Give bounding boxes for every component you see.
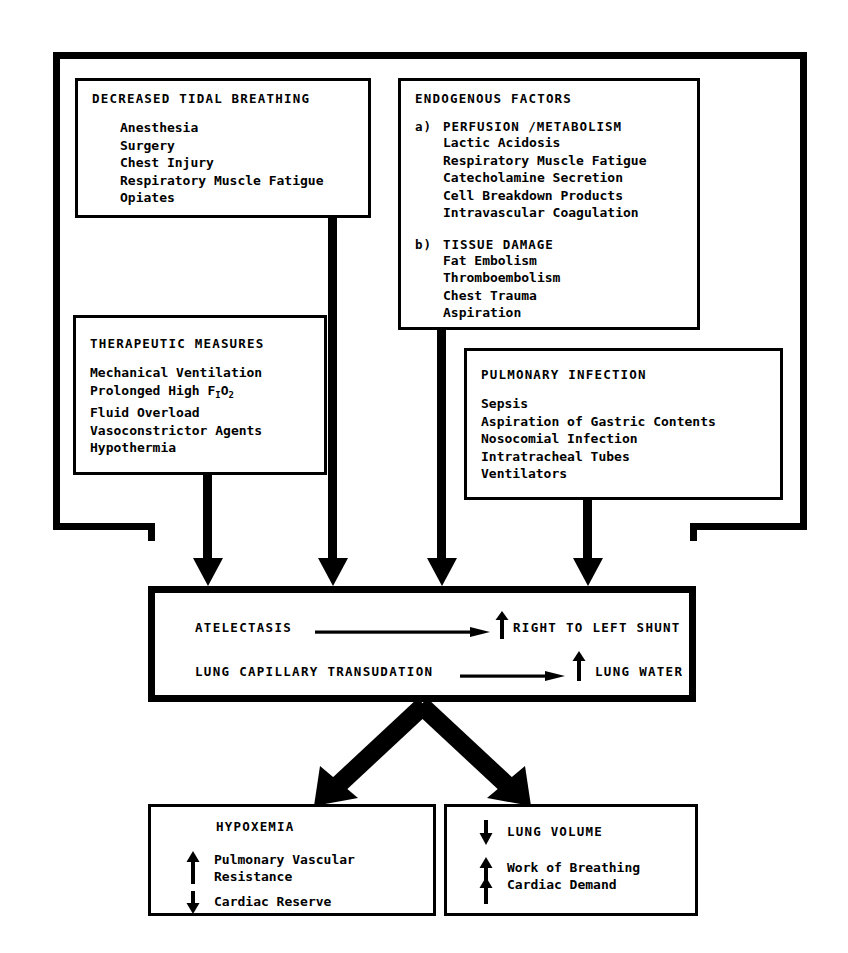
lung-volume-entry-1-line-1: Work of Breathing [507, 859, 640, 876]
outer-frame-bottom-left [53, 523, 155, 530]
increase-arrow-icon [572, 651, 586, 681]
group-subheading: PERFUSION /METABOLISM [443, 119, 622, 134]
outer-frame-left [53, 52, 60, 530]
lung-volume-entry-2-line-1: Cardiac Demand [507, 876, 617, 893]
box-pulmonary-infection: PULMONARY INFECTION Sepsis Aspiration of… [464, 348, 783, 500]
box-decreased-tidal-breathing: DECREASED TIDAL BREATHING Anesthesia Sur… [75, 78, 371, 218]
connector-endogenous-to-center [437, 330, 446, 563]
central-row-1-cause: ATELECTASIS [195, 620, 292, 635]
arrowhead-therapeutic-to-center [193, 558, 223, 586]
hypoxemia-entry-1-line-1: Pulmonary Vascular [214, 851, 355, 868]
box-lung-volume: LUNG VOLUME Work of Breathing Cardiac De… [444, 804, 698, 916]
connector-infection-to-center [583, 500, 592, 563]
list-item: Catecholamine Secretion [415, 169, 685, 187]
list-item: Chest Trauma [415, 287, 685, 305]
list-item: Respiratory Muscle Fatigue [92, 172, 356, 190]
increase-arrow-icon [186, 851, 200, 884]
list-item: Ventilators [481, 465, 768, 483]
box-heading: HYPOXEMIA [216, 819, 295, 834]
group-spacer [415, 222, 685, 237]
list-item: Opiates [92, 189, 356, 207]
outer-frame-left-stub [148, 523, 155, 541]
outer-frame-bottom-right [690, 523, 807, 530]
decrease-arrow-icon [186, 891, 200, 914]
list-item: Aspiration of Gastric Contents [481, 413, 768, 431]
list-item: Intravascular Coagulation [415, 204, 685, 222]
list-item: Chest Injury [92, 154, 356, 172]
list-item: Surgery [92, 137, 356, 155]
list-item: Hypothermia [90, 439, 312, 457]
outer-frame-right [800, 52, 807, 530]
list-item: Nosocomial Infection [481, 430, 768, 448]
diagram-canvas: DECREASED TIDAL BREATHING Anesthesia Sur… [0, 0, 848, 953]
item-list: Anesthesia Surgery Chest Injury Respirat… [92, 119, 356, 207]
arrowhead-tidal-to-center [318, 558, 348, 586]
group-subheading: TISSUE DAMAGE [443, 237, 554, 252]
group-perfusion-metabolism: a)PERFUSION /METABOLISM Lactic Acidosis … [415, 119, 685, 222]
hypoxemia-entry-2-line-1: Cardiac Reserve [214, 893, 331, 910]
list-item: Mechanical Ventilation [90, 364, 312, 382]
item-list: Mechanical Ventilation Prolonged High FI… [90, 364, 312, 457]
list-item: Fluid Overload [90, 404, 312, 422]
list-item: Aspiration [415, 304, 685, 322]
box-heading: DECREASED TIDAL BREATHING [92, 91, 356, 106]
arrowhead-endogenous-to-center [427, 558, 457, 586]
increase-arrow-icon [495, 611, 509, 639]
outer-frame-top [53, 52, 807, 59]
outer-frame-right-stub [690, 523, 697, 541]
box-heading: LUNG VOLUME [507, 824, 603, 839]
item-list: Sepsis Aspiration of Gastric Contents No… [481, 395, 768, 483]
group-tissue-damage: b)TISSUE DAMAGE Fat Embolism Thromboembo… [415, 237, 685, 322]
long-right-arrow-icon [460, 670, 565, 682]
list-item: Anesthesia [92, 119, 356, 137]
connector-therapeutic-to-center [203, 475, 212, 563]
box-therapeutic-measures: THERAPEUTIC MEASURES Mechanical Ventilat… [73, 315, 327, 475]
list-item: Cell Breakdown Products [415, 187, 685, 205]
item-list: Lactic Acidosis Respiratory Muscle Fatig… [415, 134, 685, 222]
list-item: Fat Embolism [415, 252, 685, 270]
group-marker: a) [415, 119, 443, 134]
box-endogenous-factors: ENDOGENOUS FACTORS a)PERFUSION /METABOLI… [398, 78, 700, 330]
central-row-1-effect: RIGHT TO LEFT SHUNT [513, 620, 681, 635]
split-arrow-right-icon [415, 698, 545, 810]
list-item-fio2: Prolonged High FIO2 [90, 382, 312, 405]
increase-arrow-icon [479, 877, 493, 904]
fio2-sub-two: 2 [228, 390, 233, 400]
box-heading: ENDOGENOUS FACTORS [415, 91, 685, 106]
box-central-pathophysiology: ATELECTASIS RIGHT TO LEFT SHUNT LUNG CAP… [148, 586, 696, 702]
list-item: Intratracheal Tubes [481, 448, 768, 466]
arrowhead-infection-to-center [573, 558, 603, 586]
box-heading: THERAPEUTIC MEASURES [90, 336, 312, 351]
box-heading: PULMONARY INFECTION [481, 367, 768, 382]
group-marker: b) [415, 237, 443, 252]
list-item: Lactic Acidosis [415, 134, 685, 152]
connector-tidal-to-center [328, 218, 337, 563]
list-item: Respiratory Muscle Fatigue [415, 152, 685, 170]
list-item: Thromboembolism [415, 269, 685, 287]
decrease-arrow-icon [479, 820, 493, 845]
fio2-prefix: Prolonged High F [90, 383, 215, 398]
central-row-2-cause: LUNG CAPILLARY TRANSUDATION [195, 664, 433, 679]
split-arrow-left-icon [300, 698, 430, 810]
hypoxemia-entry-1-line-2: Resistance [214, 868, 292, 885]
box-hypoxemia: HYPOXEMIA Pulmonary Vascular Resistance … [148, 804, 436, 916]
central-row-2-effect: LUNG WATER [595, 664, 683, 679]
list-item: Sepsis [481, 395, 768, 413]
list-item: Vasoconstrictor Agents [90, 422, 312, 440]
long-right-arrow-icon [315, 626, 490, 638]
item-list: Fat Embolism Thromboembolism Chest Traum… [415, 252, 685, 322]
